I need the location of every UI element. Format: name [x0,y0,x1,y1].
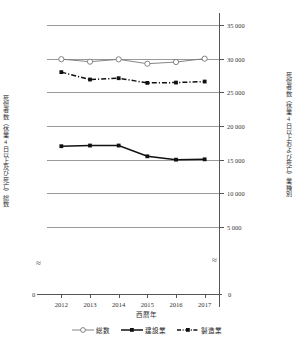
series-layer [47,25,219,294]
right-axis-tick-label: 5 000 [227,224,241,231]
data-point-open-circle [116,57,121,62]
x-axis-tickmark [90,294,91,298]
right-axis-zero-label: 0 [228,291,231,298]
x-axis-tick-label: 2012 [55,301,68,308]
x-axis-title: 西暦年 [0,309,293,319]
chart-container: 死傷者数（休業4日以上及び死亡）総数 死傷者数（休業4日以上および死亡）業種別 … [0,0,293,348]
right-axis-tick-label: 25 000 [227,89,245,96]
data-point-square [117,144,121,148]
x-axis-tick-label: 2013 [83,301,96,308]
data-point-square [203,157,207,161]
legend-item: 製造業 [177,325,222,335]
legend-label: 建設業 [145,325,166,335]
data-point-open-circle [202,56,207,61]
right-axis-title: 死傷者数（休業4日以上および死亡）業種別 [284,72,293,287]
left-axis-break-icon: ≈ [36,259,41,268]
data-point-square [59,70,63,74]
data-point-open-circle [145,61,150,66]
data-point-square [174,81,178,85]
right-axis-tick-label: 15 000 [227,156,245,163]
left-axis-title: 死傷者数（休業4日以上及び死亡）総数 [1,95,10,295]
plot-area: 20 00040 00060 00080 000100 000120 00014… [47,25,219,294]
right-axis-break-icon: ≈ [212,256,217,265]
data-point-square [145,81,149,85]
data-point-square [59,144,63,148]
data-point-square [203,80,207,84]
legend-label: 製造業 [201,325,222,335]
right-axis-spine [219,13,220,307]
chart-legend: 総数建設業製造業 [0,325,293,335]
data-point-open-circle [173,59,178,64]
data-point-square [88,144,92,148]
right-axis-tick-label: 30 000 [227,55,245,62]
x-axis-tick-label: 2015 [141,301,154,308]
x-axis-line [37,294,222,295]
legend-item: 建設業 [121,325,166,335]
x-axis-tickmark [205,294,206,298]
series-line [61,72,204,83]
data-point-open-circle [87,59,92,64]
legend-item: 総数 [72,325,110,335]
legend-label: 総数 [96,325,110,335]
x-axis-tickmark [119,294,120,298]
legend-swatch-icon [121,326,143,334]
right-axis-tick-label: 35 000 [227,22,245,29]
x-axis-tick-label: 2014 [112,301,125,308]
right-axis-tick-label: 10 000 [227,190,245,197]
x-axis-tickmark [147,294,148,298]
right-axis-tick-label: 20 000 [227,123,245,130]
data-point-square [117,76,121,80]
x-axis-tickmark [61,294,62,298]
data-point-square [145,154,149,158]
legend-swatch-icon [177,326,199,334]
series-line [61,146,204,160]
x-axis-tick-label: 2016 [169,301,182,308]
x-axis-tickmark [176,294,177,298]
data-point-square [174,158,178,162]
series-line [61,59,204,64]
data-point-open-circle [59,57,64,62]
data-point-square [88,78,92,82]
x-axis-tick-label: 2017 [198,301,211,308]
left-axis-zero-label: 0 [32,291,35,298]
legend-swatch-icon [72,326,94,334]
